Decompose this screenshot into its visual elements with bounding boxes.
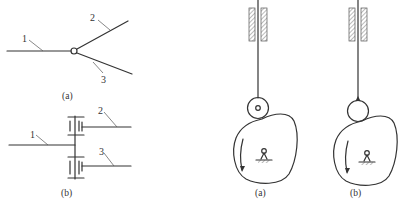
label-2: 2 [98,105,103,116]
label-3: 3 [99,146,104,157]
right-panel-a: (a) [234,0,297,199]
leader-1 [29,40,43,51]
roller-pin [256,106,261,111]
right-panel-b: (b) [334,0,397,199]
pivot-support [261,153,267,159]
rotation-arrow [346,141,348,172]
label-3: 3 [101,74,106,85]
label-2: 2 [90,12,95,23]
follower-circle [348,101,369,122]
pivot-support [364,155,370,161]
leader-3 [93,62,103,73]
left-panel-b: 1 2 3 (b) [9,105,131,199]
ground-hatch [258,160,270,163]
leader-2 [104,112,117,127]
diagram-canvas: 1 2 3 (a) 1 2 3 (b) [0,0,408,203]
caption-b: (b) [350,188,361,199]
guide-left [249,8,255,41]
roller [248,98,269,119]
caption-a: (a) [255,188,266,199]
hinge-joint [71,48,77,54]
label-1: 1 [30,129,35,140]
leader-2 [98,20,110,30]
rotation-arrowhead [345,168,350,174]
label-1: 1 [22,33,27,44]
caption-b: (b) [61,188,72,199]
left-panel-a: 1 2 3 (a) [7,12,132,102]
leader-3 [104,153,114,166]
caption-a: (a) [62,91,73,102]
rotation-arrowhead [240,166,245,172]
link-2 [77,21,128,49]
guide-left [349,8,355,41]
link-3 [77,53,132,74]
guide-right [261,8,267,41]
rotation-arrow [241,139,243,170]
ground-hatch [361,162,373,165]
leader-1 [36,135,48,145]
guide-right [361,8,367,41]
